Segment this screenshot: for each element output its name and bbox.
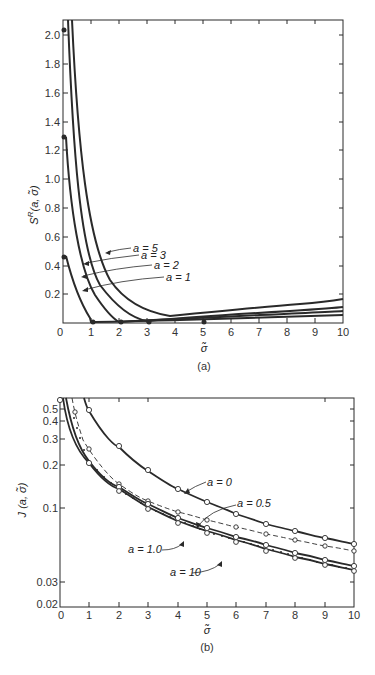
dots-b-a100 [73, 417, 347, 569]
svg-text:8: 8 [292, 609, 298, 621]
svg-text:1.2: 1.2 [45, 144, 60, 156]
svg-text:0: 0 [58, 609, 64, 621]
svg-text:SR(a, σ̃): SR(a, σ̃) [26, 185, 40, 225]
x-tick-labels-a: 0 1 2 3 4 5 6 7 8 9 10 [57, 326, 349, 338]
curve-a3 [68, 20, 343, 321]
svg-text:1.6: 1.6 [45, 87, 60, 99]
plot-frame-a [63, 20, 343, 323]
left-ticks-b [60, 409, 65, 582]
svg-text:0.5: 0.5 [43, 403, 58, 415]
svg-text:2: 2 [116, 326, 122, 338]
svg-text:1: 1 [86, 609, 92, 621]
svg-text:0.8: 0.8 [45, 202, 60, 214]
svg-text:1: 1 [88, 326, 94, 338]
top-ticks-b [89, 398, 325, 402]
svg-text:4: 4 [172, 326, 178, 338]
svg-text:5: 5 [204, 609, 210, 621]
curve-a5 [72, 20, 343, 316]
caption-a: (a) [197, 360, 210, 372]
svg-text:4: 4 [175, 609, 181, 621]
svg-text:0.2: 0.2 [43, 459, 58, 471]
svg-text:3: 3 [145, 609, 151, 621]
panel-b: 0.5 0.4 0.3 0.2 0.1 0.03 0.02 0 1 2 3 4 … [16, 397, 360, 653]
curve-b-a05 [72, 398, 354, 551]
svg-text:0.2: 0.2 [45, 288, 60, 300]
y-tick-labels-b: 0.5 0.4 0.3 0.2 0.1 0.03 0.02 [37, 403, 58, 610]
curves-a [66, 20, 343, 322]
x-axis-title-b: σ̃ [204, 624, 211, 636]
svg-text:2.0: 2.0 [45, 29, 60, 41]
figure: 2.0 1.8 1.6 1.4 1.2 1.0 0.8 0.6 0.4 0.2 … [0, 0, 375, 675]
curve-b-a0 [84, 398, 354, 544]
panel-a: 2.0 1.8 1.6 1.4 1.2 1.0 0.8 0.6 0.4 0.2 … [26, 20, 349, 372]
x-axis-title-a: σ̃ [201, 342, 208, 354]
svg-text:10: 10 [337, 326, 349, 338]
svg-text:10: 10 [348, 609, 360, 621]
svg-text:7: 7 [256, 326, 262, 338]
top-ticks-a [91, 20, 315, 24]
svg-text:0.6: 0.6 [45, 231, 60, 243]
svg-text:0.4: 0.4 [45, 260, 60, 272]
y-tick-labels-a: 2.0 1.8 1.6 1.4 1.2 1.0 0.8 0.6 0.4 0.2 [45, 29, 60, 300]
svg-text:1.0: 1.0 [45, 173, 60, 185]
label-a2: a = 2 [154, 259, 179, 271]
svg-text:9: 9 [322, 609, 328, 621]
svg-text:0.03: 0.03 [37, 576, 58, 588]
right-ticks-b [350, 409, 354, 582]
svg-text:6: 6 [228, 326, 234, 338]
svg-text:8: 8 [284, 326, 290, 338]
right-ticks-a [339, 35, 343, 294]
label-b-a10: a = 1.0 [128, 543, 163, 555]
svg-text:0.4: 0.4 [43, 415, 58, 427]
svg-text:2: 2 [116, 609, 122, 621]
svg-text:0.1: 0.1 [43, 502, 58, 514]
svg-text:6: 6 [233, 609, 239, 621]
svg-text:0.3: 0.3 [43, 433, 58, 445]
bottom-ticks-b [89, 602, 325, 607]
label-b-a100: a = 10 [170, 566, 202, 578]
svg-text:3: 3 [144, 326, 150, 338]
svg-text:7: 7 [263, 609, 269, 621]
svg-text:5: 5 [200, 326, 206, 338]
caption-b: (b) [200, 641, 213, 653]
label-b-a05: a = 0.5 [237, 497, 272, 509]
svg-text:0.02: 0.02 [37, 598, 58, 610]
x-tick-labels-b: 0 1 2 3 4 5 6 7 8 9 10 [58, 609, 360, 621]
label-b-a0: a = 0 [207, 476, 233, 488]
svg-text:1.8: 1.8 [45, 58, 60, 70]
y-axis-title-b: J (a, σ̃) [16, 482, 28, 518]
svg-text:9: 9 [312, 326, 318, 338]
y-axis-title-a: SR(a, σ̃) [26, 185, 40, 225]
svg-text:1.4: 1.4 [45, 116, 60, 128]
svg-text:0: 0 [57, 326, 63, 338]
label-a1: a = 1 [166, 271, 191, 283]
